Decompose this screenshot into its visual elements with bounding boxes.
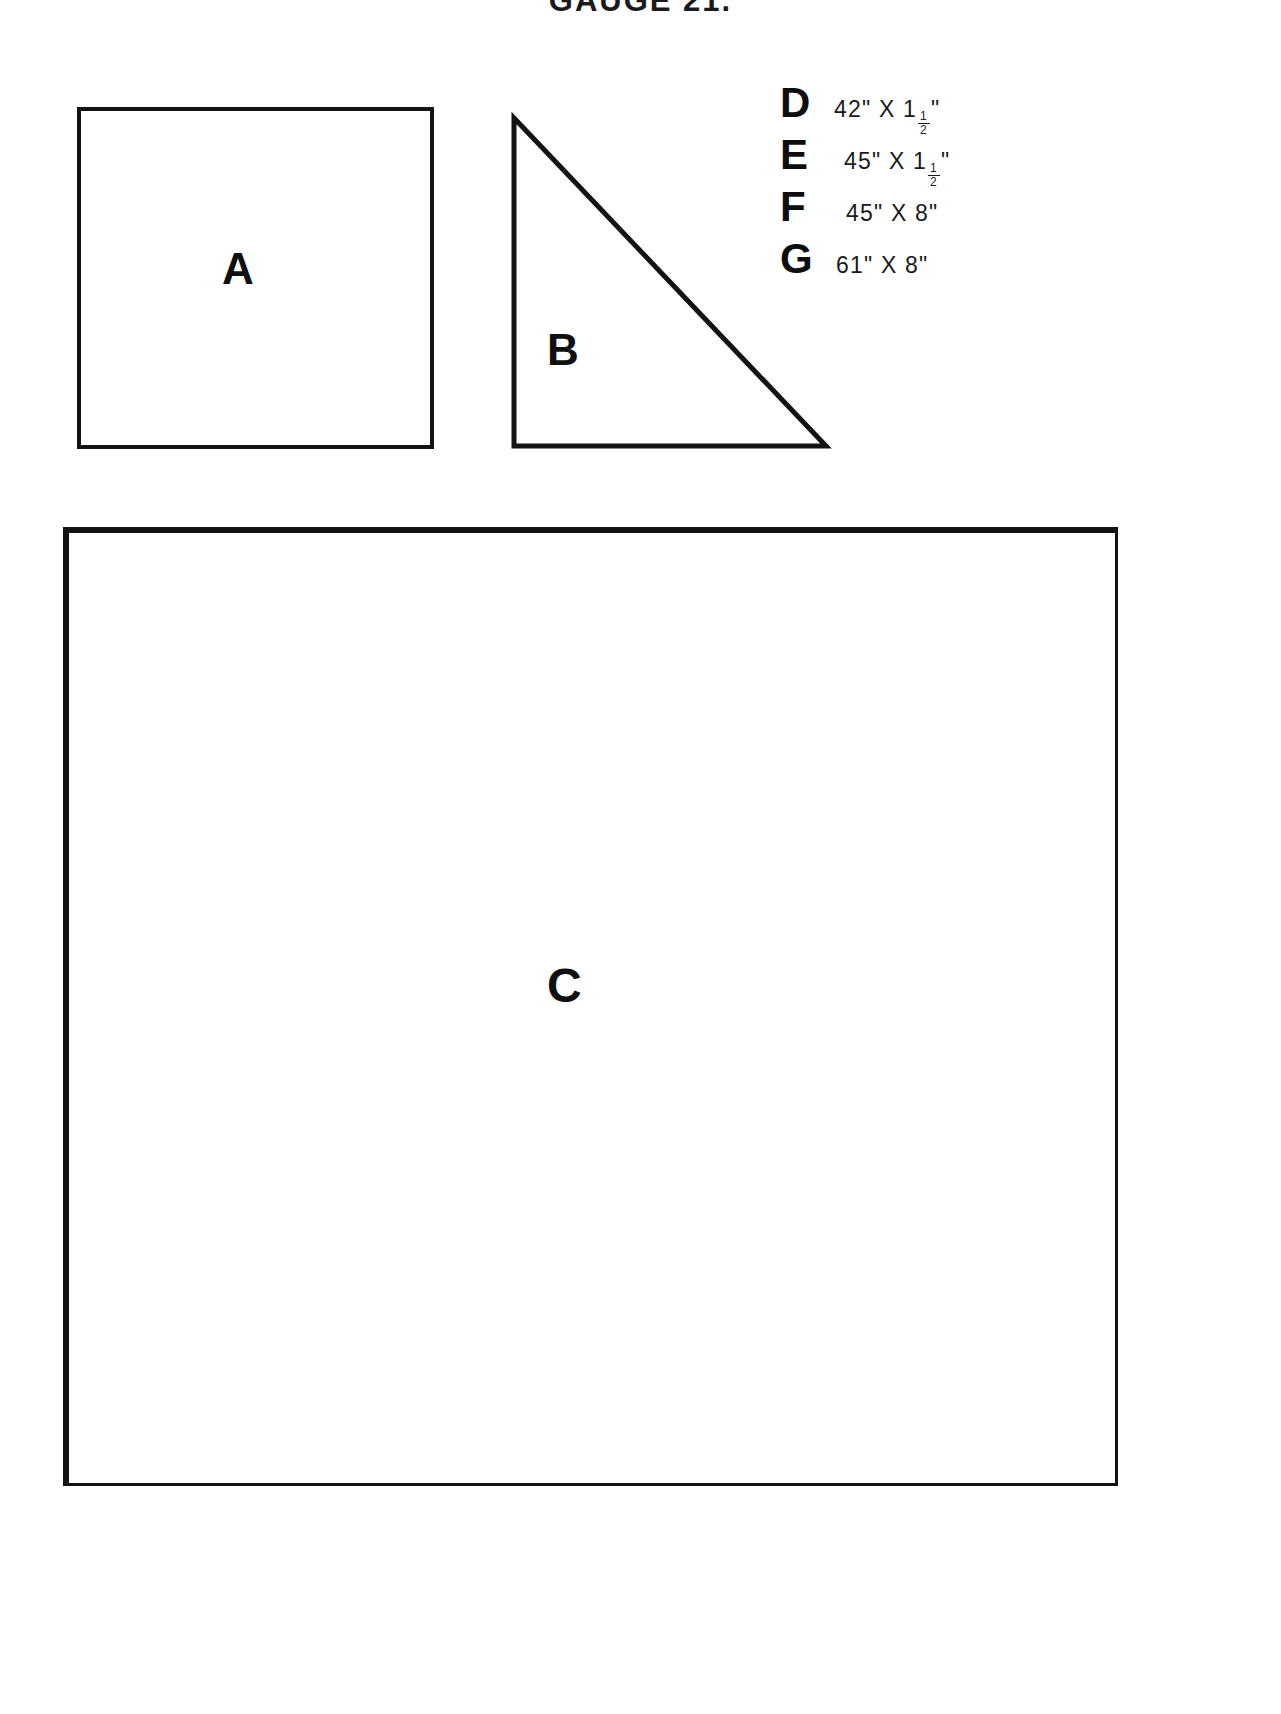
legend-key-e: E: [780, 134, 826, 176]
legend-d-times: X: [879, 96, 896, 122]
legend-g-height: 8": [905, 252, 928, 278]
legend-e-fraction: 12: [928, 162, 940, 187]
legend-e-width: 45": [844, 148, 881, 174]
legend-f-whole: 8: [915, 200, 929, 226]
legend-g-whole: 8: [905, 252, 919, 278]
legend-d-numerator: 1: [918, 110, 930, 122]
legend-e-denominator: 2: [928, 175, 940, 188]
shape-c-label: C: [547, 962, 582, 1010]
legend-e-times: X: [889, 148, 906, 174]
legend-d-height: 112": [903, 96, 940, 122]
legend-key-f: F: [780, 186, 826, 228]
legend-f-width: 45": [846, 200, 883, 226]
legend-key-g: G: [780, 238, 826, 280]
legend-e-height: 112": [913, 148, 950, 174]
legend-g-width: 61": [836, 252, 873, 278]
legend-e-numerator: 1: [928, 162, 940, 174]
shape-a-label: A: [222, 247, 254, 291]
legend-row-d: D 42" X 112": [780, 82, 1080, 134]
legend-f-times: X: [891, 200, 908, 226]
legend-dims-g: 61" X 8": [826, 252, 928, 279]
page-title: GAUGE 21.: [0, 0, 1281, 19]
legend-dims-d: 42" X 112": [826, 96, 940, 136]
shape-c-square: [63, 527, 1118, 1486]
legend-dims-f: 45" X 8": [826, 200, 938, 227]
legend-e-whole: 1: [913, 148, 927, 174]
legend-row-g: G 61" X 8": [780, 238, 1080, 290]
legend-g-unit: ": [919, 252, 928, 278]
legend-e-unit: ": [941, 148, 950, 174]
legend-dims-e: 45" X 112": [826, 148, 950, 188]
legend-f-unit: ": [929, 200, 938, 226]
legend-d-width: 42": [834, 96, 871, 122]
legend-row-f: F 45" X 8": [780, 186, 1080, 238]
legend-key-d: D: [780, 82, 826, 124]
dimension-legend: D 42" X 112" E 45" X 112" F 45" X 8": [780, 82, 1080, 290]
shape-b-label: B: [547, 328, 579, 372]
diagram-page: GAUGE 21. A B C D 42" X 112" E 45" X 112…: [0, 0, 1281, 1714]
legend-d-fraction: 12: [918, 110, 930, 135]
legend-d-unit: ": [931, 96, 940, 122]
legend-row-e: E 45" X 112": [780, 134, 1080, 186]
legend-d-denominator: 2: [918, 123, 930, 136]
legend-f-height: 8": [915, 200, 938, 226]
legend-g-times: X: [881, 252, 898, 278]
legend-d-whole: 1: [903, 96, 917, 122]
shape-a-square: [77, 107, 434, 449]
